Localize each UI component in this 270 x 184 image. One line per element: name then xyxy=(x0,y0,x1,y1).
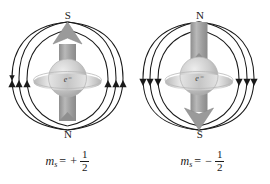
panel-spin-down: e⁻ N S ms=−12 xyxy=(135,0,270,184)
fraction-numerator: 1 xyxy=(215,149,225,162)
equals-sign: = xyxy=(194,154,201,168)
spin-sign: + xyxy=(70,154,77,168)
pole-label-top: S xyxy=(48,9,88,21)
panel-spin-up: e⁻ S N ms=+12 xyxy=(0,0,135,184)
electron-sphere: e⁻ xyxy=(34,59,102,97)
fraction-denominator: 2 xyxy=(215,162,225,174)
equals-sign: = xyxy=(59,154,66,168)
spin-symbol: m xyxy=(181,154,190,168)
pole-label-bottom: N xyxy=(48,128,88,140)
spin-subscript: s xyxy=(189,160,192,169)
spin-quantum-number-label: ms=+12 xyxy=(0,150,135,174)
electron-label: e⁻ xyxy=(64,75,73,84)
spin-fraction: 12 xyxy=(215,149,225,173)
spin-symbol: m xyxy=(46,154,55,168)
spin-figure: e⁻ S N ms=+12 xyxy=(0,0,270,184)
fraction-numerator: 1 xyxy=(80,149,90,162)
fraction-denominator: 2 xyxy=(80,162,90,174)
spin-subscript: s xyxy=(54,160,57,169)
electron-sphere: e⁻ xyxy=(165,57,233,95)
spin-sign: − xyxy=(205,154,212,168)
spin-fraction: 12 xyxy=(80,149,90,173)
spin-quantum-number-label: ms=−12 xyxy=(135,150,270,174)
pole-label-bottom: S xyxy=(180,128,220,140)
pole-label-top: N xyxy=(180,9,220,21)
electron-label: e⁻ xyxy=(195,74,204,83)
